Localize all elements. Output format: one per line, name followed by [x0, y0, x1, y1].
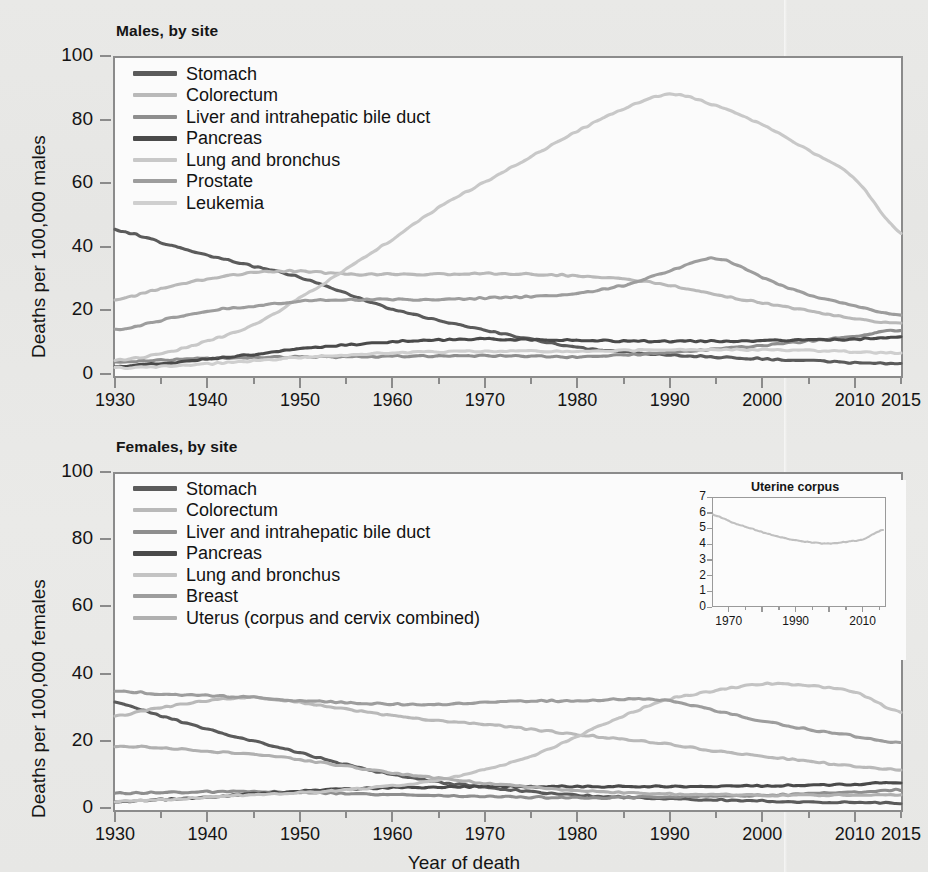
legend-swatch — [133, 508, 177, 512]
legend-item: Lung and bronchus — [133, 564, 480, 586]
legend-item: Stomach — [133, 478, 480, 500]
x-tick-mark-minor — [715, 812, 717, 818]
y-tick-label: 100 — [31, 44, 93, 66]
x-tick-mark-minor — [761, 812, 763, 822]
inset-y-tick-label: 5 — [688, 520, 706, 534]
x-tick-mark-minor — [299, 378, 301, 388]
x-tick-label: 2015 — [861, 824, 928, 845]
inset-y-tick-mark — [707, 591, 712, 592]
x-tick-mark-minor — [900, 378, 902, 384]
inset-y-tick-mark — [707, 528, 712, 529]
x-tick-label: 1970 — [445, 824, 525, 845]
legend-label: Uterus (corpus and cervix combined) — [186, 609, 480, 627]
inset-x-tick-mark — [795, 607, 796, 612]
legend-item: Liver and intrahepatic bile duct — [133, 106, 430, 128]
x-tick-mark-minor — [345, 812, 347, 818]
y-tick-label: 20 — [31, 298, 93, 320]
legend-label: Stomach — [186, 480, 257, 498]
legend-label: Lung and bronchus — [186, 151, 340, 169]
y-tick-mark — [100, 309, 111, 311]
inset-x-tick-mark — [728, 607, 729, 612]
inset-x-tick-mark — [761, 607, 762, 612]
y-tick-mark — [100, 373, 111, 375]
series-line — [713, 514, 883, 543]
inset-x-tick-label: 1990 — [771, 614, 821, 628]
series-line — [115, 697, 901, 770]
x-tick-label: 1950 — [260, 824, 340, 845]
legend-swatch — [133, 616, 177, 620]
inset-y-tick-label: 1 — [688, 583, 706, 597]
legend-label: Stomach — [186, 65, 257, 83]
inset-x-tick-mark — [862, 607, 863, 612]
x-tick-mark-minor — [576, 378, 578, 388]
x-tick-mark-minor — [900, 812, 902, 818]
x-tick-mark-minor — [206, 812, 208, 822]
y-tick-label: 60 — [31, 594, 93, 616]
legend-label: Leukemia — [186, 194, 264, 212]
inset-series-svg — [713, 498, 883, 604]
legend-swatch — [133, 201, 177, 205]
inset-plot-area — [712, 497, 886, 607]
x-tick-mark-minor — [715, 378, 717, 384]
inset-y-tick-label: 6 — [688, 505, 706, 519]
legend-item: Colorectum — [133, 85, 430, 107]
x-tick-mark-minor — [669, 378, 671, 388]
x-tick-label: 1970 — [445, 390, 525, 411]
legend-item: Pancreas — [133, 128, 430, 150]
y-tick-mark — [100, 119, 111, 121]
legend-swatch — [133, 573, 177, 577]
legend-label: Lung and bronchus — [186, 566, 340, 584]
inset-y-tick-mark — [707, 575, 712, 576]
males-panel-title: Males, by site — [116, 22, 218, 40]
y-tick-mark — [100, 740, 111, 742]
inset-x-tick-label: 1970 — [704, 614, 754, 628]
panel-males: Males, by site Deaths per 100,000 males … — [0, 0, 928, 420]
females-legend: StomachColorectumLiver and intrahepatic … — [133, 478, 480, 629]
inset-y-tick-mark — [707, 559, 712, 560]
inset-x-tick-mark — [845, 607, 846, 610]
y-tick-mark — [100, 807, 111, 809]
inset-x-tick-mark — [778, 607, 779, 610]
inset-y-tick-mark — [707, 512, 712, 513]
x-tick-mark-minor — [854, 378, 856, 388]
x-tick-label: 1930 — [75, 390, 155, 411]
legend-label: Pancreas — [186, 129, 262, 147]
x-tick-mark-minor — [391, 812, 393, 822]
y-tick-label: 100 — [31, 460, 93, 482]
inset-y-tick-mark — [707, 544, 712, 545]
inset-y-tick-label: 7 — [688, 489, 706, 503]
x-tick-mark-minor — [623, 812, 625, 818]
legend-label: Colorectum — [186, 86, 278, 104]
legend-item: Colorectum — [133, 500, 480, 522]
legend-swatch — [133, 486, 177, 491]
legend-item: Stomach — [133, 63, 430, 85]
x-tick-label: 1960 — [352, 390, 432, 411]
x-tick-label: 1950 — [260, 390, 340, 411]
x-tick-label: 1940 — [167, 824, 247, 845]
legend-swatch — [133, 115, 177, 119]
x-tick-mark-minor — [438, 812, 440, 818]
x-tick-mark-minor — [530, 378, 532, 384]
inset-x-tick-mark — [828, 607, 829, 612]
y-tick-label: 60 — [31, 171, 93, 193]
legend-swatch — [133, 530, 177, 534]
x-tick-mark-minor — [438, 378, 440, 384]
x-tick-mark-minor — [808, 378, 810, 384]
y-tick-mark — [100, 246, 111, 248]
x-tick-mark-minor — [854, 812, 856, 822]
inset-y-tick-label: 2 — [688, 568, 706, 582]
legend-swatch — [133, 179, 177, 183]
x-tick-mark-minor — [253, 378, 255, 384]
x-tick-mark-minor — [299, 812, 301, 822]
x-tick-label: 1990 — [630, 824, 710, 845]
y-tick-label: 40 — [31, 662, 93, 684]
panel-females: Females, by site Deaths per 100,000 fema… — [0, 420, 928, 872]
legend-swatch — [133, 158, 177, 162]
females-panel-title: Females, by site — [116, 438, 237, 456]
x-tick-label: 2015 — [861, 390, 928, 411]
x-tick-mark-minor — [206, 378, 208, 388]
y-tick-mark — [100, 182, 111, 184]
x-tick-label: 1980 — [537, 390, 617, 411]
y-tick-mark — [100, 471, 111, 473]
x-tick-label: 1930 — [75, 824, 155, 845]
